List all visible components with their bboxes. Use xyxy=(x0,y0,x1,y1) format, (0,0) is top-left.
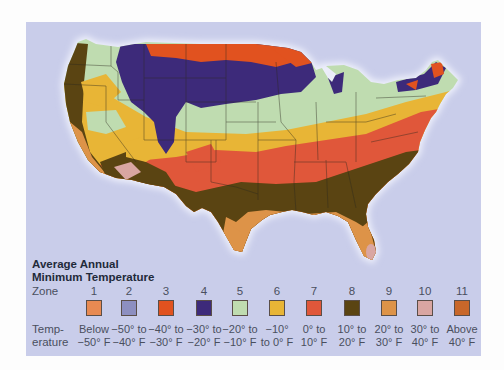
map-panel: Average Annual Minimum Temperature Zone … xyxy=(26,22,481,356)
temperature-range-line2: −50° F xyxy=(74,336,114,349)
temperature-row-label: Temp- erature xyxy=(32,323,68,349)
temperature-range-line1: −30° to xyxy=(184,323,224,336)
zone-swatch xyxy=(86,300,102,316)
zone-swatch xyxy=(417,300,433,316)
temperature-label-line1: Temp- xyxy=(32,323,68,336)
temperature-label-line2: erature xyxy=(32,336,68,349)
temperature-range-line2: 40° F xyxy=(405,336,445,349)
zone-number: 10 xyxy=(410,285,440,297)
zone-swatch xyxy=(196,300,212,316)
temperature-range-line1: −50° to xyxy=(109,323,149,336)
temperature-range-line1: Below xyxy=(74,323,114,336)
zone-number: 1 xyxy=(79,285,109,297)
temperature-range-line2: −30° F xyxy=(146,336,186,349)
zone-temperature-range: −30° to−20° F xyxy=(184,323,224,349)
zone-swatch xyxy=(454,300,470,316)
zone-swatch xyxy=(381,300,397,316)
zone-number: 3 xyxy=(151,285,181,297)
zone-temperature-range: Above40° F xyxy=(442,323,482,349)
zone-swatch xyxy=(121,300,137,316)
temperature-range-line1: 10° to xyxy=(332,323,372,336)
zone-temperature-range: 20° to30° F xyxy=(369,323,409,349)
zone-swatch xyxy=(344,300,360,316)
temperature-range-line1: 0° to xyxy=(294,323,334,336)
temperature-range-line1: 30° to xyxy=(405,323,445,336)
temperature-range-line2: to 0° F xyxy=(257,336,297,349)
temperature-range-line2: −20° F xyxy=(184,336,224,349)
zone-swatch xyxy=(269,300,285,316)
temperature-range-line2: −10° F xyxy=(220,336,260,349)
zone-temperature-range: 10° to20° F xyxy=(332,323,372,349)
zone-number: 2 xyxy=(114,285,144,297)
zone-temperature-range: −40° to−30° F xyxy=(146,323,186,349)
temperature-range-line1: 20° to xyxy=(369,323,409,336)
zone-temperature-range: −20° to−10° F xyxy=(220,323,260,349)
us-hardiness-map xyxy=(26,22,481,272)
zone-number: 8 xyxy=(337,285,367,297)
legend-title-line2: Minimum Temperature xyxy=(32,271,154,284)
legend-title-line1: Average Annual xyxy=(32,258,154,271)
temperature-range-line2: 30° F xyxy=(369,336,409,349)
temperature-range-line1: −40° to xyxy=(146,323,186,336)
zone-swatch xyxy=(158,300,174,316)
temperature-range-line2: 10° F xyxy=(294,336,334,349)
zone-number: 4 xyxy=(189,285,219,297)
temperature-range-line2: 20° F xyxy=(332,336,372,349)
temperature-range-line1: Above xyxy=(442,323,482,336)
temperature-range-line2: −40° F xyxy=(109,336,149,349)
temperature-range-line2: 40° F xyxy=(442,336,482,349)
zone-number: 9 xyxy=(374,285,404,297)
zone-temperature-range: −50° to−40° F xyxy=(109,323,149,349)
zone-swatch xyxy=(232,300,248,316)
zone-number: 6 xyxy=(262,285,292,297)
zone-temperature-range: 0° to10° F xyxy=(294,323,334,349)
zone-row-label: Zone xyxy=(32,285,58,298)
temperature-range-line1: −20° to xyxy=(220,323,260,336)
legend-title: Average Annual Minimum Temperature xyxy=(32,258,154,284)
zone-number: 7 xyxy=(299,285,329,297)
zone-temperature-range: −10°to 0° F xyxy=(257,323,297,349)
temperature-range-line1: −10° xyxy=(257,323,297,336)
zone-temperature-range: 30° to40° F xyxy=(405,323,445,349)
zone-number: 11 xyxy=(447,285,477,297)
zone-swatch xyxy=(306,300,322,316)
zone-number: 5 xyxy=(225,285,255,297)
zone-temperature-range: Below−50° F xyxy=(74,323,114,349)
